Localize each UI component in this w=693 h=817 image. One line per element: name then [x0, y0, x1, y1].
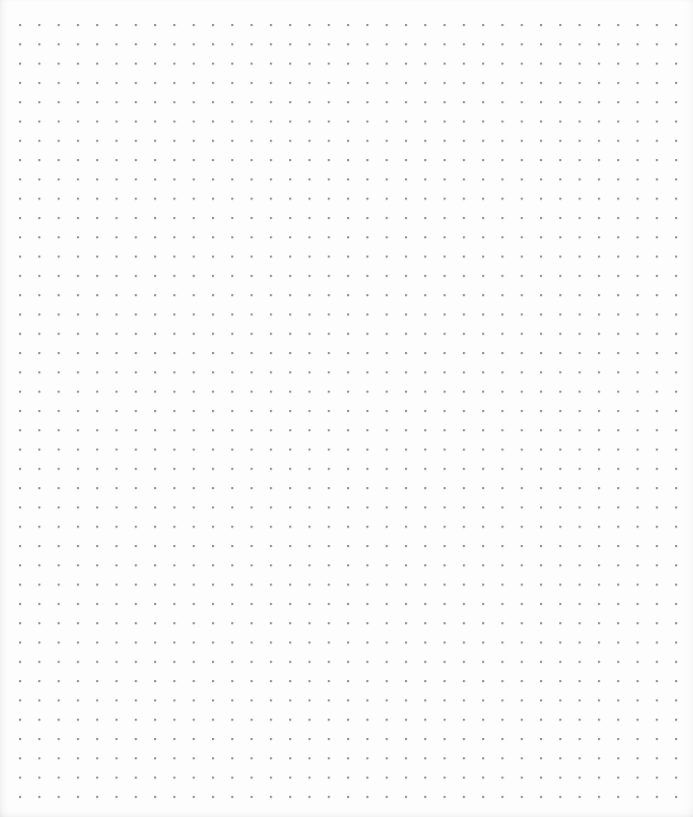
dot-grid [19, 24, 678, 799]
dot-grid-paper [0, 0, 693, 817]
